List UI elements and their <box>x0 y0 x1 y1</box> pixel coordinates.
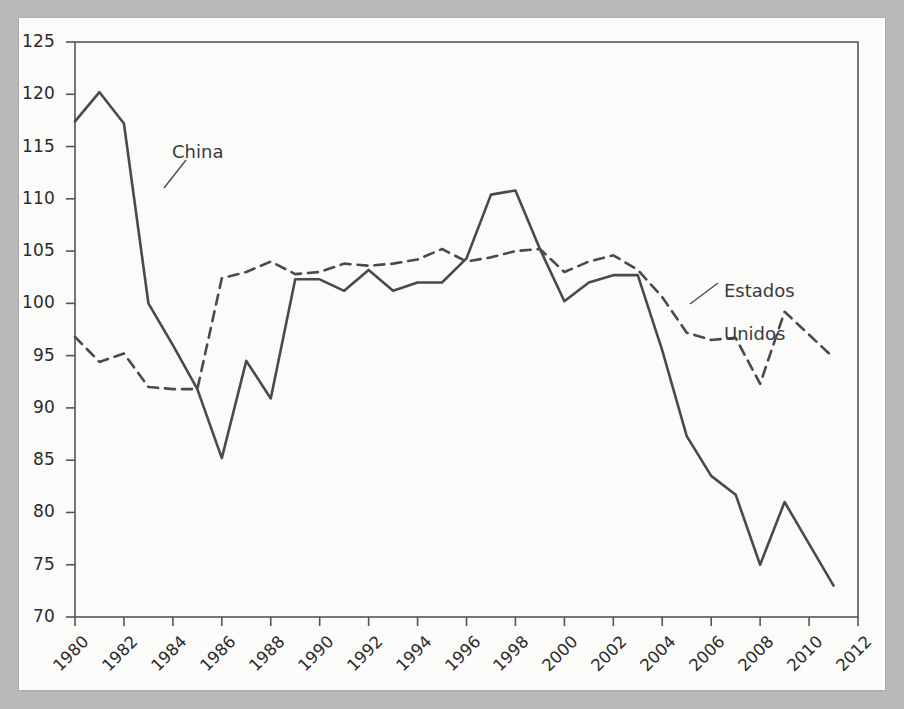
y-tick-label: 75 <box>9 554 55 574</box>
y-tick-label: 85 <box>9 449 55 469</box>
us-leader-line <box>690 283 718 304</box>
y-tick-label: 70 <box>9 606 55 626</box>
y-tick-label: 115 <box>9 136 55 156</box>
figure-root: 707580859095100105110115120125 198019821… <box>0 0 904 709</box>
us-annotation-line-1: Estados <box>724 280 795 301</box>
series-layer <box>75 92 834 585</box>
y-tick-label: 110 <box>9 188 55 208</box>
series-annotation-estados-unidos: Estados Unidos <box>724 259 795 365</box>
us-annotation-line-2: Unidos <box>724 323 795 344</box>
y-axis-ticks <box>66 42 75 617</box>
y-tick-label: 120 <box>9 83 55 103</box>
y-tick-label: 80 <box>9 501 55 521</box>
china-leader-line <box>164 160 186 188</box>
y-tick-label: 105 <box>9 240 55 260</box>
y-tick-label: 90 <box>9 397 55 417</box>
y-tick-label: 125 <box>9 31 55 51</box>
y-tick-label: 95 <box>9 345 55 365</box>
y-tick-label: 100 <box>9 292 55 312</box>
series-annotation-china: China <box>172 141 223 162</box>
x-axis-ticks <box>75 617 858 626</box>
